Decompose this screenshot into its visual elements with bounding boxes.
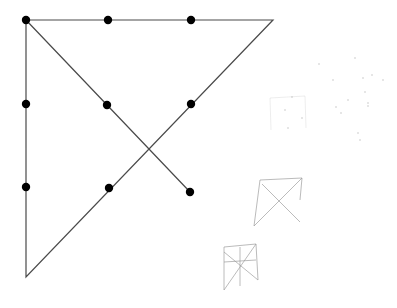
speck [354,57,356,59]
dot-1-2 [104,16,112,24]
nine-dot-puzzle-diagram [0,0,397,308]
speck [359,139,361,141]
speck [362,77,364,79]
speck [318,63,320,65]
dot-2-2 [103,101,111,109]
speck [347,99,349,101]
dot-1-3 [187,16,195,24]
dot-2-1 [22,100,30,108]
speck [357,132,359,134]
speck [332,79,334,81]
speck [335,106,337,108]
speck [284,109,286,111]
dot-2-3 [187,100,195,108]
dot-1-1 [22,16,30,24]
speck [364,91,366,93]
dot-3-3 [186,188,194,196]
background [0,0,397,308]
speck [367,102,369,104]
speck [287,127,289,129]
speck [340,112,342,114]
speck [367,105,369,107]
speck [301,117,303,119]
speck [291,96,293,98]
speck [382,79,384,81]
speck [371,74,373,76]
dot-3-2 [105,184,113,192]
dot-3-1 [22,183,30,191]
